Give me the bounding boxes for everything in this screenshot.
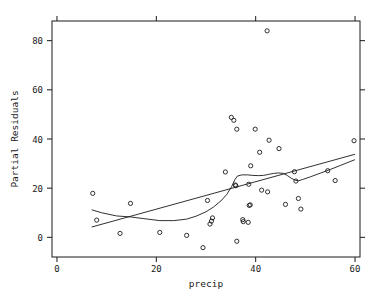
y-tick-label: 40 (32, 135, 43, 145)
data-point (258, 150, 262, 154)
axis-ticks (47, 16, 365, 262)
data-point (235, 239, 239, 243)
axis-labels: 0204060020406080precipPartial Residuals (9, 36, 360, 289)
y-axis-title: Partial Residuals (9, 90, 20, 187)
data-point (185, 233, 189, 237)
data-point (296, 196, 300, 200)
y-tick-label: 0 (38, 233, 43, 243)
x-axis-title: precip (189, 278, 224, 289)
data-point (352, 139, 356, 143)
data-point (201, 246, 205, 250)
x-tick-label: 60 (350, 264, 361, 274)
fit-line-lowess-fit (92, 160, 355, 221)
y-tick-label: 60 (32, 85, 43, 95)
x-tick-label: 0 (54, 264, 59, 274)
data-point (260, 188, 264, 192)
data-point (223, 170, 227, 174)
plot-canvas: 0204060020406080precipPartial Residuals (0, 0, 382, 294)
x-tick-label: 40 (250, 264, 261, 274)
data-point (205, 198, 209, 202)
data-point (249, 164, 253, 168)
data-point (283, 202, 287, 206)
data-point (246, 220, 250, 224)
data-point (128, 201, 132, 205)
y-tick-label: 20 (32, 184, 43, 194)
data-point (267, 138, 271, 142)
y-tick-label: 80 (32, 36, 43, 46)
data-point (118, 231, 122, 235)
x-tick-label: 20 (151, 264, 162, 274)
data-point (91, 191, 95, 195)
fit-lines (92, 154, 355, 227)
data-point (158, 230, 162, 234)
data-point (277, 146, 281, 150)
data-point (266, 190, 270, 194)
data-point (299, 207, 303, 211)
data-point (232, 118, 236, 122)
data-point (95, 218, 99, 222)
data-point (265, 29, 269, 33)
fit-line-linear-fit (92, 154, 355, 227)
data-point (253, 127, 257, 131)
data-point (235, 127, 239, 131)
partial-residual-plot: 0204060020406080precipPartial Residuals (0, 0, 382, 294)
data-point (333, 178, 337, 182)
